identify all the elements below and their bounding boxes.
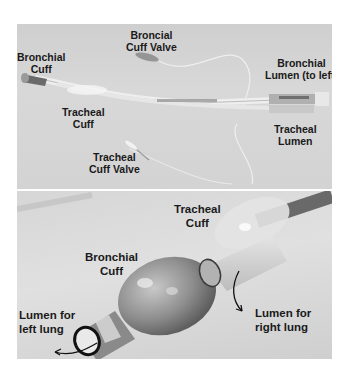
label-bronchial-cuff-valve: Broncial Cuff Valve: [126, 29, 177, 53]
top-photo-panel: Bronchial Cuff Broncial Cuff Valve Bronc…: [17, 24, 332, 189]
label-bronchial-cuff: Bronchial Cuff: [17, 51, 65, 75]
label-lumen-left-lung: Lumen for left lung: [19, 309, 75, 336]
bottom-photo-panel: Tracheal Cuff Bronchial Cuff Lumen for l…: [17, 191, 332, 359]
label-tracheal-cuff-closeup: Tracheal Cuff: [174, 203, 221, 230]
label-bronchial-cuff-closeup: Bronchial Cuff: [85, 251, 138, 278]
label-bronchial-lumen: Bronchial Lumen (to left): [265, 57, 332, 81]
label-lumen-right-lung: Lumen for right lung: [255, 307, 311, 334]
label-tracheal-cuff-valve: Tracheal Cuff Valve: [89, 151, 140, 175]
label-tracheal-lumen: Tracheal Lumen: [274, 123, 317, 147]
label-tracheal-cuff: Tracheal Cuff: [62, 106, 105, 130]
